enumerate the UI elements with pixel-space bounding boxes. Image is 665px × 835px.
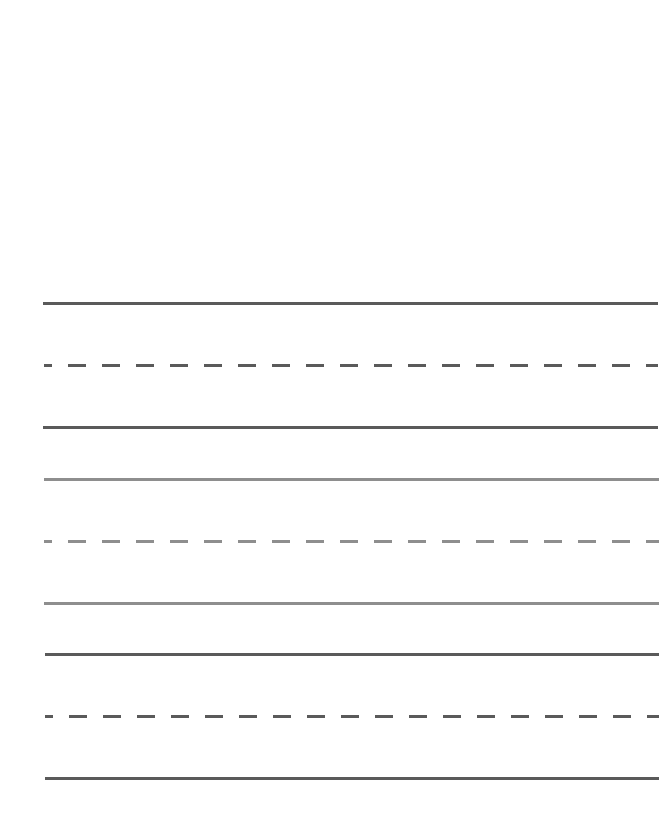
baseline-solid-line <box>43 426 658 429</box>
handwriting-practice-sheet <box>0 0 665 835</box>
midline-dashed-line <box>44 364 658 367</box>
baseline-solid-line <box>44 602 659 605</box>
midline-dashed-line <box>45 715 659 718</box>
top-solid-line <box>43 302 658 305</box>
baseline-solid-line <box>45 777 659 780</box>
top-solid-line <box>44 478 659 481</box>
top-solid-line <box>45 653 659 656</box>
midline-dashed-line <box>44 540 659 543</box>
